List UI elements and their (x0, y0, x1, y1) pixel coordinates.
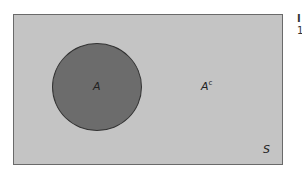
sample-space-label: S (263, 144, 270, 155)
cropped-text-line-2: 1 (297, 26, 302, 36)
complement-label: Ac (201, 81, 212, 92)
cropped-text-line-1: I (297, 14, 301, 24)
event-a-label: A (93, 81, 101, 92)
